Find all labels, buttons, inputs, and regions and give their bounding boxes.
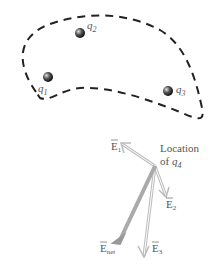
label-e3: E3 (152, 242, 163, 256)
charge-q2-label: q2 (87, 19, 97, 34)
charge-q3: q3 (163, 83, 186, 98)
label-e2: E2 (166, 198, 177, 212)
charge-q2: q2 (75, 19, 97, 38)
vector-enet (113, 166, 155, 244)
location-label-line2: of q4 (160, 155, 181, 170)
dashed-boundary (23, 15, 203, 118)
charge-q1: q1 (38, 72, 53, 97)
label-e1: E1 (111, 140, 122, 154)
vector-e1 (121, 143, 155, 166)
vector-e2 (155, 166, 169, 197)
charge-q1-label: q1 (38, 82, 48, 97)
label-enet: Enet (100, 242, 115, 256)
electric-field-diagram: q2 q1 q3 E1 E2 E3 Enet Location of q4 (0, 0, 216, 272)
charge-q3-label: q3 (176, 83, 186, 98)
location-label-line1: Location (160, 142, 200, 154)
